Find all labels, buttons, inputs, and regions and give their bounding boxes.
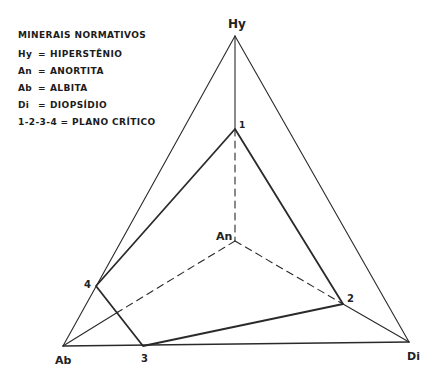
point-label-1: 1 <box>239 120 245 130</box>
point-label-3: 3 <box>141 353 148 364</box>
vertex-label-ab: Ab <box>55 354 72 367</box>
edge-an-di-hidden <box>235 241 343 304</box>
edge-ab-an-visible <box>63 312 118 346</box>
edge-2-di <box>343 304 409 342</box>
edge-hy-di <box>235 36 409 342</box>
point-label-2: 2 <box>347 293 354 304</box>
vertex-label-di: Di <box>407 350 420 363</box>
point-label-4: 4 <box>84 279 91 290</box>
vertex-label-an: An <box>216 230 232 243</box>
edge-hy-ab <box>63 36 235 346</box>
edge-ab-di <box>63 342 409 346</box>
vertex-label-hy: Hy <box>228 17 246 31</box>
edge-an-ab-hidden <box>118 241 235 312</box>
tetrahedron-diagram: Hy An Ab Di 1 2 3 4 <box>0 0 435 381</box>
